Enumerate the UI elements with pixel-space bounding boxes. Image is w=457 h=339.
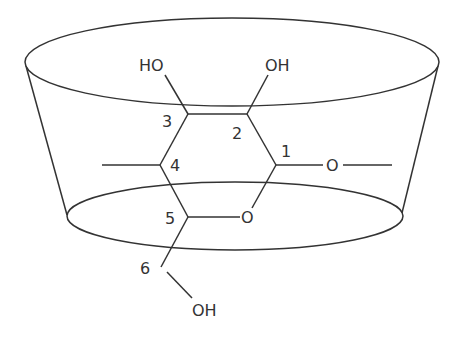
label-c4: 4	[170, 156, 180, 175]
bond-c3-oh	[165, 75, 188, 114]
cone-left-side	[26, 66, 67, 215]
label-oh-c2: OH	[265, 56, 290, 75]
label-c6: 6	[140, 259, 150, 278]
bond-o-c1	[252, 165, 276, 208]
label-oh-c6: OH	[192, 301, 217, 320]
cyclodextrin-diagram: HO OH OH O O 1 2 3 4 5 6	[0, 0, 457, 339]
bottom-rim-ellipse	[67, 182, 403, 250]
bond-c2-c1	[247, 114, 276, 165]
label-c1: 1	[281, 142, 291, 161]
label-ring-oxygen: O	[241, 208, 254, 227]
label-c2: 2	[232, 124, 242, 143]
label-ho-c3: HO	[139, 56, 164, 75]
label-c5: 5	[165, 209, 175, 228]
bond-c6-oh	[167, 272, 192, 298]
bond-c2-oh	[247, 75, 268, 114]
cone-right-side	[402, 66, 438, 213]
label-c3: 3	[162, 112, 172, 131]
top-rim-ellipse	[25, 18, 439, 106]
label-glycosidic-oxygen: O	[326, 156, 339, 175]
